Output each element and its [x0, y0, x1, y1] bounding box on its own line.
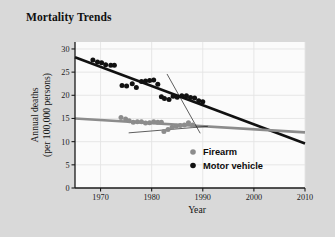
legend-marker-motor-vehicle — [190, 163, 196, 169]
x-axis-title: Year — [188, 204, 206, 215]
chart-canvas: 051015202530 19701980199020002010 Year A… — [0, 0, 335, 237]
data-point-motor-vehicle — [175, 95, 180, 100]
data-point-motor-vehicle — [200, 99, 205, 104]
data-point-motor-vehicle — [112, 63, 117, 68]
legend-label-firearm: Firearm — [203, 147, 237, 157]
data-point-motor-vehicle — [155, 82, 160, 87]
y-tick-label: 5 — [65, 161, 69, 170]
data-point-motor-vehicle — [120, 83, 125, 88]
data-point-motor-vehicle — [130, 81, 135, 86]
data-point-motor-vehicle — [90, 58, 95, 63]
y-tick-label: 10 — [61, 138, 69, 147]
y-tick-label: 25 — [61, 68, 69, 77]
x-tick-labels: 19701980199020002010 — [92, 188, 313, 202]
data-point-motor-vehicle — [124, 84, 129, 89]
data-point-firearm — [159, 120, 164, 125]
chart-card: Mortality Trends 051015202530 1970198019… — [0, 0, 335, 237]
x-tick-label: 1970 — [92, 193, 108, 202]
data-point-motor-vehicle — [134, 85, 139, 90]
legend-marker-firearm — [190, 149, 196, 155]
data-point-motor-vehicle — [162, 96, 167, 101]
y-tick-label: 0 — [65, 184, 69, 193]
data-point-motor-vehicle — [167, 97, 172, 102]
data-point-firearm — [119, 115, 124, 120]
legend-label-motor-vehicle: Motor vehicle — [203, 161, 263, 171]
data-point-motor-vehicle — [179, 93, 184, 98]
x-tick-label: 1990 — [195, 193, 211, 202]
mortality-trends-chart: 051015202530 19701980199020002010 Year A… — [0, 0, 335, 237]
data-point-motor-vehicle — [103, 62, 108, 67]
x-tick-label: 1980 — [143, 193, 159, 202]
x-tick-label: 2010 — [297, 193, 313, 202]
data-point-motor-vehicle — [192, 96, 197, 101]
x-tick-label: 2000 — [246, 193, 262, 202]
data-point-motor-vehicle — [151, 78, 156, 83]
y-tick-label: 15 — [61, 114, 69, 123]
y-axis-title-line2: (per 100,000 persons) — [41, 73, 53, 157]
y-tick-label: 20 — [61, 91, 69, 100]
y-tick-label: 30 — [61, 45, 69, 54]
y-tick-labels: 051015202530 — [61, 45, 75, 193]
data-point-firearm — [190, 122, 195, 127]
y-axis-title-line1: Annual deaths — [29, 87, 40, 142]
